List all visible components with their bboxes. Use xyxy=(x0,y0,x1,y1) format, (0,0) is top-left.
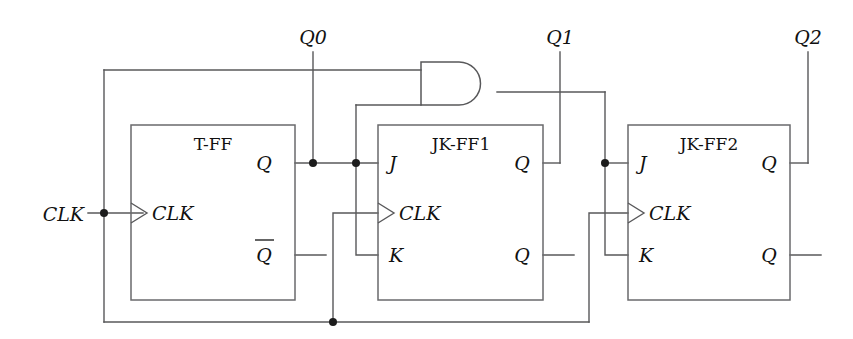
jk-ff1-k-pin-label: K xyxy=(388,244,405,266)
dot-bottom-bus-node xyxy=(329,318,337,326)
jk-ff1-q-top-pin-label: Q xyxy=(514,152,530,174)
jk-ff1-clk-triangle-icon xyxy=(378,203,394,223)
wire-jk1-j-to-k xyxy=(356,163,378,255)
block-jk-ff2[interactable]: JK-FF2 J CLK K Q Q xyxy=(628,125,790,300)
q1-label: Q1 xyxy=(546,26,574,48)
jk-ff1-q-bottom-pin-label: Q xyxy=(514,244,530,266)
wire-jk2-clk xyxy=(589,213,628,322)
clk-input-label: CLK xyxy=(43,203,86,225)
jk-ff1-j-pin-label: J xyxy=(385,152,398,174)
q0-label: Q0 xyxy=(299,26,327,48)
jk-ff2-q-bottom-pin-label: Q xyxy=(761,244,777,266)
block-jk-ff1[interactable]: JK-FF1 J CLK K Q Q xyxy=(378,125,543,300)
jk-ff2-label: JK-FF2 xyxy=(678,134,738,154)
dot-jk2-jk-node xyxy=(601,159,609,167)
jk-ff2-j-pin-label: J xyxy=(635,152,648,174)
t-ff-qbar-pin-label: Q xyxy=(256,244,272,266)
circuit-svg: T-FF CLK Q Q JK-FF1 J CLK K Q Q JK-FF2 J… xyxy=(0,0,853,339)
and-gate-shape-icon xyxy=(421,62,481,105)
dot-jk1-jk-node xyxy=(352,159,360,167)
junction-dots xyxy=(100,159,609,326)
wires xyxy=(88,52,821,322)
t-ff-q-pin-label: Q xyxy=(256,152,272,174)
jk-ff1-label: JK-FF1 xyxy=(430,134,490,154)
jk-ff2-k-pin-label: K xyxy=(638,244,655,266)
and-gate[interactable] xyxy=(421,62,481,105)
jk-ff2-clk-pin-label: CLK xyxy=(649,202,692,224)
q2-label: Q2 xyxy=(794,26,822,48)
dot-clk-bus xyxy=(100,209,108,217)
jk-ff1-clk-pin-label: CLK xyxy=(399,202,442,224)
dot-q0-node xyxy=(309,159,317,167)
jk-ff2-q-top-pin-label: Q xyxy=(761,152,777,174)
block-t-ff[interactable]: T-FF CLK Q Q xyxy=(131,125,295,300)
circuit-diagram: T-FF CLK Q Q JK-FF1 J CLK K Q Q JK-FF2 J… xyxy=(0,0,853,339)
t-ff-label: T-FF xyxy=(194,134,233,154)
wire-jk2-j-to-k xyxy=(605,163,628,255)
t-ff-clk-pin-label: CLK xyxy=(152,202,195,224)
jk-ff2-clk-triangle-icon xyxy=(628,203,644,223)
